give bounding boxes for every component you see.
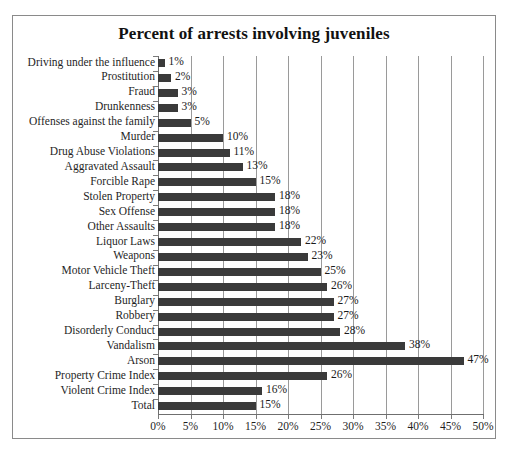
x-axis-tick <box>288 415 289 419</box>
bar-value-label: 23% <box>312 249 333 261</box>
x-axis-tick <box>223 415 224 419</box>
category-label: Prostitution <box>23 70 155 83</box>
x-axis-tick-label: 40% <box>407 420 428 432</box>
bar-value-label: 26% <box>331 279 352 291</box>
bar <box>158 208 275 216</box>
bar-row: 18% <box>158 190 506 206</box>
bar <box>158 178 256 186</box>
bar-value-label: 3% <box>182 85 197 97</box>
x-axis-tick <box>256 415 257 419</box>
category-label: Sex Offense <box>23 205 155 218</box>
bar <box>158 104 178 112</box>
plot-area: 1%2%3%3%5%10%11%13%15%18%18%18%22%23%25%… <box>158 56 483 414</box>
bar <box>158 283 327 291</box>
category-axis-labels: Driving under the influenceProstitutionF… <box>23 56 155 414</box>
bar-row: 15% <box>158 399 506 415</box>
bar-row: 26% <box>158 280 506 296</box>
x-axis-tick-label: 25% <box>310 420 331 432</box>
bar-row: 1% <box>158 56 506 72</box>
bar <box>158 253 308 261</box>
bar-value-label: 11% <box>234 145 255 157</box>
bar-row: 18% <box>158 205 506 221</box>
category-label: Stolen Property <box>23 190 155 203</box>
x-axis-tick <box>321 415 322 419</box>
category-label: Violent Crime Index <box>23 384 155 397</box>
x-axis-tick <box>158 415 159 419</box>
bar-value-label: 47% <box>468 353 489 365</box>
x-axis-tick <box>483 415 484 419</box>
bar-value-label: 16% <box>266 383 287 395</box>
category-label: Offenses against the family <box>23 115 155 128</box>
bar-value-label: 3% <box>182 100 197 112</box>
bar-row: 15% <box>158 175 506 191</box>
category-label: Disorderly Conduct <box>23 324 155 337</box>
category-label: Drug Abuse Violations <box>23 145 155 158</box>
bar-value-label: 18% <box>279 189 300 201</box>
category-label: Drunkenness <box>23 100 155 113</box>
category-label: Arson <box>23 354 155 367</box>
x-axis-tick-label: 45% <box>440 420 461 432</box>
bar-row: 38% <box>158 339 506 355</box>
bar <box>158 372 327 380</box>
bar <box>158 134 223 142</box>
x-axis-tick-label: 50% <box>472 420 493 432</box>
bar <box>158 357 464 365</box>
bar-value-label: 15% <box>260 398 281 410</box>
bar <box>158 342 405 350</box>
bar-value-label: 25% <box>325 264 346 276</box>
x-axis-tick <box>451 415 452 419</box>
category-label: Total <box>23 399 155 412</box>
bar <box>158 298 334 306</box>
bar-value-label: 1% <box>169 55 184 67</box>
category-label: Robbery <box>23 309 155 322</box>
bar-value-label: 22% <box>305 234 326 246</box>
x-axis-tick <box>191 415 192 419</box>
bar <box>158 59 165 67</box>
chart-frame: Percent of arrests involving juveniles D… <box>12 15 496 439</box>
bar-row: 11% <box>158 146 506 162</box>
x-axis-tick-label: 35% <box>375 420 396 432</box>
bar-value-label: 18% <box>279 219 300 231</box>
category-label: Burglary <box>23 294 155 307</box>
category-label: Aggravated Assault <box>23 160 155 173</box>
bar-row: 26% <box>158 369 506 385</box>
category-label: Larceny-Theft <box>23 279 155 292</box>
bar <box>158 163 243 171</box>
bar-row: 28% <box>158 325 506 341</box>
bar-row: 16% <box>158 384 506 400</box>
bar-row: 18% <box>158 220 506 236</box>
bar <box>158 223 275 231</box>
bar <box>158 119 191 127</box>
bar <box>158 238 301 246</box>
x-axis-labels: 0%5%10%15%20%25%30%35%40%45%50% <box>158 420 484 438</box>
x-axis-tick <box>353 415 354 419</box>
bar-value-label: 28% <box>344 324 365 336</box>
bar <box>158 89 178 97</box>
category-label: Liquor Laws <box>23 235 155 248</box>
category-label: Fraud <box>23 85 155 98</box>
category-label: Other Assaults <box>23 220 155 233</box>
bar <box>158 328 340 336</box>
bar-value-label: 26% <box>331 368 352 380</box>
bar-value-label: 10% <box>227 130 248 142</box>
bar <box>158 149 230 157</box>
category-label: Weapons <box>23 249 155 262</box>
bar-value-label: 38% <box>409 338 430 350</box>
x-axis-tick-label: 5% <box>183 420 198 432</box>
bar <box>158 402 256 410</box>
category-label: Murder <box>23 130 155 143</box>
x-axis-tick-label: 10% <box>212 420 233 432</box>
bar-value-label: 15% <box>260 174 281 186</box>
bar <box>158 313 334 321</box>
bar-row: 27% <box>158 295 506 311</box>
bar-value-label: 27% <box>338 294 359 306</box>
bar-row: 5% <box>158 116 506 132</box>
bars-layer: 1%2%3%3%5%10%11%13%15%18%18%18%22%23%25%… <box>158 56 483 414</box>
x-axis-tick-label: 15% <box>245 420 266 432</box>
chart-title: Percent of arrests involving juveniles <box>13 24 495 44</box>
bar-row: 2% <box>158 71 506 87</box>
bar <box>158 387 262 395</box>
x-axis-tick <box>418 415 419 419</box>
bar-value-label: 5% <box>195 115 210 127</box>
x-axis-tick <box>386 415 387 419</box>
